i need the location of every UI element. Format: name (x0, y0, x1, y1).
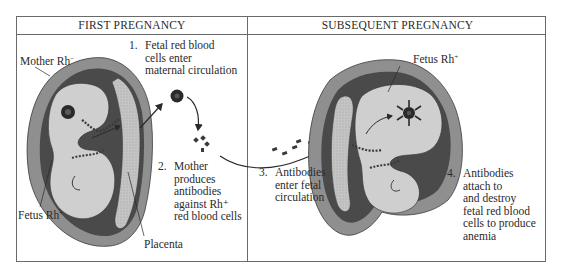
antibodies-in-transit-icon (272, 139, 314, 156)
label-mother-rh-negative: Mother Rh− (20, 55, 74, 68)
label-fetus-rh-positive-subsequent: Fetus Rh+ (413, 53, 458, 66)
arrow-to-antibodies (187, 97, 199, 130)
label-placenta: Placenta (144, 238, 183, 251)
label-fetus-rh-positive-first: Fetus Rh+ (18, 209, 63, 222)
uterus-subsequent-pregnancy (309, 60, 463, 236)
fetal-red-blood-cell-icon (171, 90, 184, 103)
antibodies-cluster-icon (193, 135, 210, 152)
